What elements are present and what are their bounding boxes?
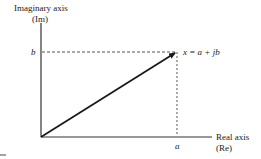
point-label: x = a + jb <box>183 47 220 57</box>
a-tick-label: a <box>175 141 180 151</box>
vector-arrow <box>41 53 175 137</box>
real-axis-label-abbrev: (Re) <box>216 143 232 153</box>
real-axis-label: Real axis <box>216 132 249 142</box>
imaginary-axis-label-abbrev: (Im) <box>32 14 48 24</box>
b-tick-label: b <box>31 47 36 57</box>
imaginary-axis-label: Imaginary axis <box>14 3 68 13</box>
